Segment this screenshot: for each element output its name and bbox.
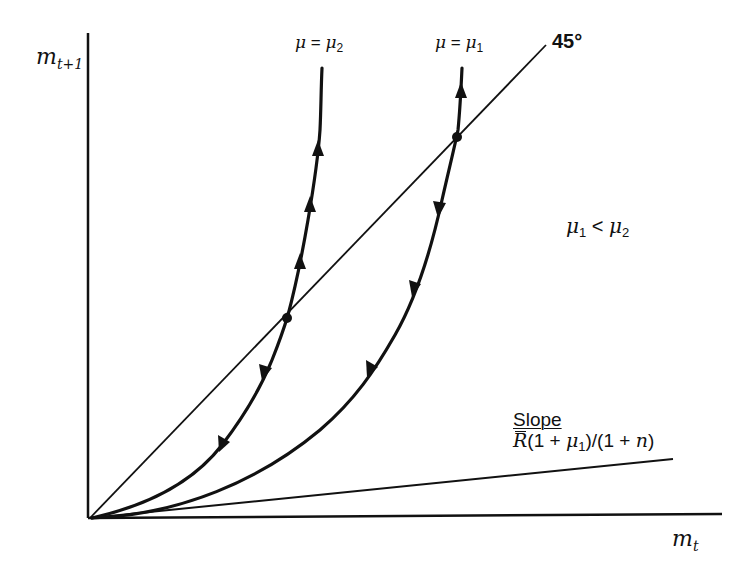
line-45-degree [90,45,546,518]
mu-subscript: 2 [622,225,629,240]
less-than-sign: < [586,215,609,237]
y-axis-label-base: m [36,44,57,69]
fixed-point-mu1 [452,132,462,142]
arrow-up-icon [294,253,306,269]
condition-label: μ1 < μ2 [566,214,629,240]
arrow-up-icon [455,82,467,98]
arrow-up-icon [304,196,316,212]
mu-symbol: μ [465,32,476,52]
label-45-degree: 45° [552,30,582,53]
x-axis-label: mt [672,526,699,554]
mu-symbol: μ [566,214,579,238]
r-bar-symbol: R [513,430,527,451]
mu-symbol: μ [325,32,336,52]
slope-label: Slope R(1 + μ1)/(1 + n) [513,409,654,457]
y-axis-label-sub: t+1 [57,56,83,72]
n-symbol: n [636,429,648,451]
x-axis-label-base: m [672,526,693,551]
mu-subscript: 2 [337,41,344,55]
curve-mu2-label: μ = μ2 [295,32,343,55]
formula-part: (1 + [527,430,566,451]
mu-subscript: 1 [477,41,484,55]
mu-symbol: μ [609,214,622,238]
slope-line [90,459,673,518]
slope-formula: R(1 + μ1)/(1 + n) [513,430,654,457]
equals-sign: = [311,33,321,52]
x-axis-label-sub: t [693,538,699,554]
slope-title: Slope [513,409,654,430]
diagram-canvas [0,0,756,576]
equals-sign: = [451,33,461,52]
curve-mu1-label: μ = μ1 [435,32,483,55]
curve-mu2 [92,68,322,518]
formula-part: ) [648,430,654,451]
x-axis [88,514,722,518]
y-axis-label: mt+1 [36,44,83,72]
phase-diagram: mt+1 mt 45° μ = μ2 μ = μ1 μ1 < μ2 Slope … [0,0,756,576]
mu-symbol: μ [435,32,446,52]
mu-symbol: μ [566,429,578,451]
fixed-point-mu2 [282,313,292,323]
curve-mu1 [92,68,462,518]
mu-symbol: μ [295,32,306,52]
formula-part: )/(1 + [585,430,635,451]
arrow-up-icon [312,140,324,156]
